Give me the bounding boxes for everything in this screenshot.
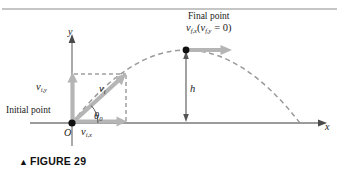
final-point-marker	[183, 47, 190, 54]
origin-label: O	[64, 128, 71, 138]
projectile-motion-figure: Final point vf,x(vf,y = 0) Initial point…	[0, 0, 339, 178]
v-iy-label: vi,y	[36, 82, 47, 93]
caption-text: FIGURE 29	[30, 155, 86, 167]
final-point-velocity-expression: vf,x(vf,y = 0)	[186, 23, 231, 34]
figure-canvas	[0, 0, 339, 178]
height-arrow-head-bottom	[183, 114, 189, 122]
v-ix-arrow-head	[117, 116, 128, 126]
caption-triangle-icon: ▲	[19, 157, 28, 167]
y-axis-label: y	[68, 27, 72, 37]
v-final-x-arrow-head	[221, 45, 233, 55]
max-height-label: h	[190, 84, 195, 95]
final-point-title: Final point	[186, 12, 231, 22]
final-point-label: Final point vf,x(vf,y = 0)	[186, 12, 231, 34]
figure-caption: ▲FIGURE 29	[19, 155, 86, 167]
initial-point-label: Initial point	[6, 106, 51, 116]
initial-point-marker	[68, 119, 75, 126]
launch-angle-label: θ0	[94, 111, 102, 122]
v-ix-label: vi,x	[81, 127, 92, 138]
x-axis-label: x	[325, 122, 329, 132]
v-initial-label: vi	[99, 84, 105, 95]
